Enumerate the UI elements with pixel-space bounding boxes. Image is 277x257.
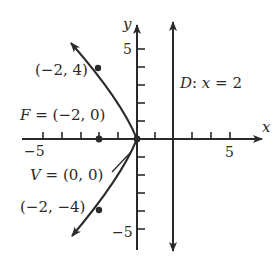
- upper-point: [95, 65, 101, 71]
- upper-point-label: (−2, 4): [35, 61, 88, 79]
- focus-label-prefix: F: [19, 106, 31, 124]
- y-axis-label: y: [122, 15, 132, 33]
- x-tick-label-5: 5: [225, 144, 234, 160]
- directrix-label: D: x = 2: [179, 74, 242, 92]
- y-tick-label-5: 5: [123, 41, 132, 57]
- focus-label-rest: = (−2, 0): [30, 106, 105, 124]
- directrix-label-colon: :: [192, 74, 202, 92]
- directrix-label-rest: = 2: [210, 74, 242, 92]
- lower-point-label: (−2, −4): [20, 198, 85, 216]
- y-tick-label-neg5: −5: [112, 224, 133, 240]
- directrix-label-prefix: D: [179, 74, 192, 92]
- focus-label: F = (−2, 0): [19, 106, 105, 124]
- x-axis: [22, 132, 262, 139]
- focus-point: [96, 136, 103, 143]
- x-tick-label-neg5: −5: [24, 143, 45, 159]
- parabola-diagram: y x 5 −5 −5 5 (−2, 4) F = (−2, 0) V = (0…: [0, 0, 277, 257]
- vertex-point: [134, 136, 141, 143]
- vertex-label: V = (0, 0): [30, 166, 103, 184]
- vertex-label-rest: = (0, 0): [41, 166, 103, 184]
- x-axis-label: x: [262, 118, 271, 136]
- lower-point: [96, 207, 102, 213]
